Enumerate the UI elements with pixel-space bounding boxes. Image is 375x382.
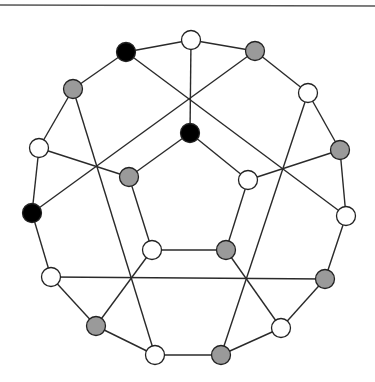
graph-node-gray	[331, 141, 350, 160]
graph-node-black	[23, 204, 42, 223]
graph-edge	[32, 51, 255, 213]
graph-node-black	[117, 43, 136, 62]
graph-node-white	[239, 171, 258, 190]
graph-edge	[39, 89, 73, 148]
graph-node-white	[146, 346, 165, 365]
graph-node-gray	[64, 80, 83, 99]
graph-edge	[190, 133, 248, 180]
graph-node-white	[143, 241, 162, 260]
graph-node-gray	[246, 42, 265, 61]
graph-edge	[248, 150, 340, 180]
graph-edge	[51, 277, 325, 279]
graph-edge	[129, 177, 152, 250]
graph-edge	[129, 133, 190, 177]
graph-node-white	[337, 207, 356, 226]
graph-canvas	[0, 0, 375, 382]
graph-diagram	[0, 0, 375, 382]
graph-node-white	[182, 31, 201, 50]
graph-edge	[96, 250, 152, 326]
graph-node-white	[42, 268, 61, 287]
graph-node-gray	[212, 346, 231, 365]
graph-edge	[126, 52, 346, 216]
graph-node-white	[272, 319, 291, 338]
graph-node-white	[30, 139, 49, 158]
top-rule-divider	[0, 5, 375, 6]
graph-node-white	[299, 84, 318, 103]
graph-node-gray	[120, 168, 139, 187]
graph-node-black	[181, 124, 200, 143]
graph-node-gray	[316, 270, 335, 289]
graph-node-gray	[87, 317, 106, 336]
graph-edge	[190, 40, 191, 133]
nodes-layer	[23, 31, 356, 365]
graph-node-gray	[217, 241, 236, 260]
graph-edge	[226, 180, 248, 250]
